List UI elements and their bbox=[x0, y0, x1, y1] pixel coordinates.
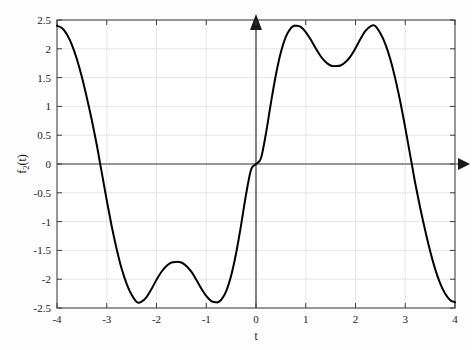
y-tick-label: -2 bbox=[42, 273, 51, 285]
y-tick-label: 1.5 bbox=[37, 72, 51, 84]
x-tick-label: -4 bbox=[52, 313, 62, 325]
y-tick-label: 2 bbox=[46, 43, 52, 55]
x-tick-label: -1 bbox=[202, 313, 211, 325]
y-tick-label: 1 bbox=[46, 100, 52, 112]
y-tick-label: -1.5 bbox=[34, 244, 52, 256]
x-tick-label: -2 bbox=[152, 313, 161, 325]
x-axis-arrow-icon bbox=[458, 158, 470, 170]
y-tick-label: 2.5 bbox=[37, 14, 51, 26]
x-tick-label: 4 bbox=[452, 313, 458, 325]
x-tick-label: 2 bbox=[353, 313, 359, 325]
y-tick-label: -0.5 bbox=[34, 187, 52, 199]
chart-svg: -4-3-2-101234-2.5-2-1.5-1-0.500.511.522.… bbox=[0, 0, 472, 350]
chart-figure: -4-3-2-101234-2.5-2-1.5-1-0.500.511.522.… bbox=[0, 0, 472, 350]
x-tick-label: 3 bbox=[403, 313, 409, 325]
x-tick-label: 0 bbox=[253, 313, 259, 325]
y-axis-title-tail: (t) bbox=[15, 154, 29, 165]
y-tick-label: 0.5 bbox=[37, 129, 51, 141]
x-axis-title: t bbox=[254, 330, 258, 342]
y-tick-label: 0 bbox=[46, 158, 52, 170]
svg-text:f2(t): f2(t) bbox=[15, 154, 31, 174]
y-tick-label: -1 bbox=[42, 216, 51, 228]
y-tick-label: -2.5 bbox=[34, 302, 52, 314]
y-axis-title: f2(t) bbox=[15, 154, 31, 174]
x-tick-label: -3 bbox=[102, 313, 112, 325]
x-tick-label: 1 bbox=[303, 313, 309, 325]
